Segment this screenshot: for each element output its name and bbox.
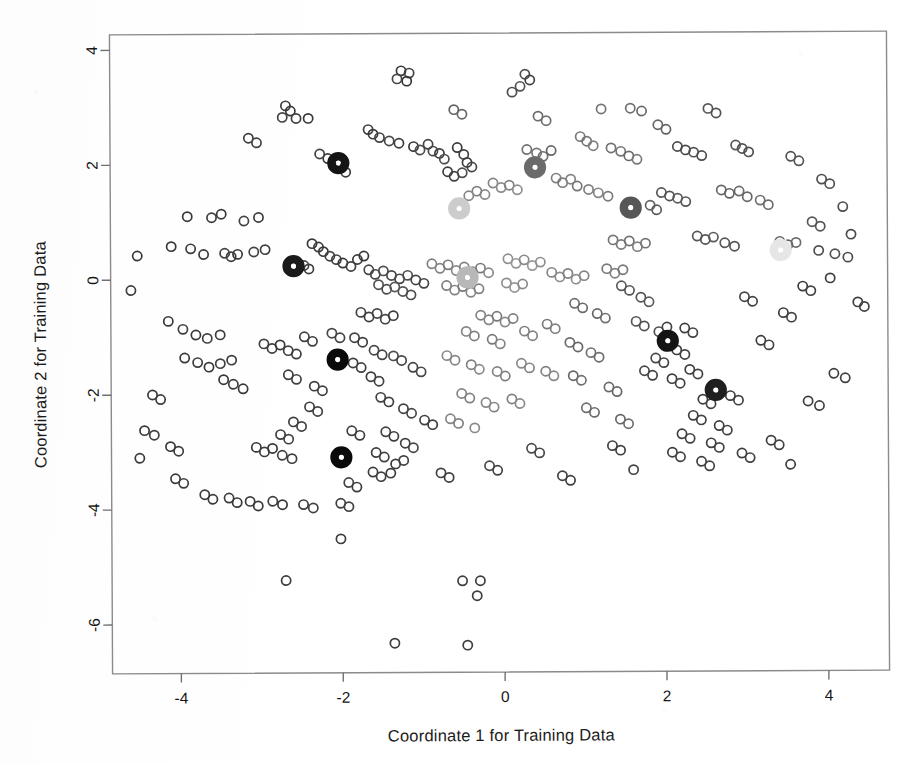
data-point: [416, 367, 425, 376]
data-point: [814, 246, 823, 255]
data-point: [344, 502, 353, 511]
data-point: [207, 213, 216, 222]
data-point: [282, 576, 291, 585]
data-point: [335, 333, 344, 342]
axis-ticks: -4-2024420-2-4-6: [83, 42, 834, 707]
y-tick-label: -6: [86, 618, 103, 632]
data-point: [806, 286, 815, 295]
data-point: [239, 216, 248, 225]
data-point: [140, 426, 149, 435]
data-point: [254, 213, 263, 222]
data-point: [711, 108, 720, 117]
data-point: [378, 350, 387, 359]
data-point: [723, 425, 732, 434]
data-point: [508, 314, 517, 323]
data-point: [308, 337, 317, 346]
cluster-center-core: [291, 264, 296, 269]
data-point: [284, 435, 293, 444]
x-tick-label: 2: [663, 687, 672, 704]
data-point: [199, 250, 208, 259]
data-point: [705, 461, 714, 470]
data-point: [475, 365, 484, 374]
data-point: [276, 340, 285, 349]
data-point: [547, 146, 556, 155]
y-tick-label: -4: [85, 503, 102, 517]
cluster-centers-layer: [286, 154, 788, 464]
cluster-center-core: [628, 205, 633, 210]
data-point: [397, 356, 406, 365]
data-point: [515, 399, 524, 408]
data-point: [216, 330, 225, 339]
data-point: [318, 386, 327, 395]
data-point: [578, 303, 587, 312]
data-point: [697, 151, 706, 160]
data-point: [618, 265, 627, 274]
x-tick-label: -4: [175, 690, 189, 707]
data-point: [278, 451, 287, 460]
data-point: [260, 245, 269, 254]
data-point: [629, 465, 638, 474]
data-point: [528, 331, 537, 340]
data-point: [535, 448, 544, 457]
data-point: [541, 116, 550, 125]
data-point: [419, 279, 428, 288]
data-point: [596, 104, 605, 113]
data-point: [625, 286, 634, 295]
data-point: [652, 205, 661, 214]
data-point: [389, 311, 398, 320]
data-point: [399, 456, 408, 465]
data-point: [178, 325, 187, 334]
data-point: [252, 138, 261, 147]
data-point: [566, 476, 575, 485]
data-point: [457, 110, 466, 119]
data-point: [676, 452, 685, 461]
data-point: [730, 242, 739, 251]
data-point: [513, 185, 522, 194]
data-point: [364, 265, 373, 274]
data-point: [626, 104, 635, 113]
data-point: [492, 312, 501, 321]
data-point: [501, 371, 510, 380]
data-point: [577, 376, 586, 385]
data-point: [309, 503, 318, 512]
data-point: [641, 239, 650, 248]
data-points-layer: [125, 64, 870, 651]
data-point: [573, 181, 582, 190]
data-point: [515, 82, 524, 91]
data-point: [449, 172, 458, 181]
data-point: [551, 173, 560, 182]
data-point: [725, 189, 734, 198]
data-point: [268, 497, 277, 506]
data-point: [216, 359, 225, 368]
data-point: [179, 479, 188, 488]
data-point: [233, 498, 242, 507]
data-point: [644, 297, 653, 306]
data-point: [384, 397, 393, 406]
data-point: [463, 641, 472, 650]
data-point: [474, 284, 483, 293]
data-point: [786, 460, 795, 469]
x-tick-label: 4: [825, 686, 834, 703]
data-point: [174, 447, 183, 456]
data-point: [150, 431, 159, 440]
data-point: [278, 500, 287, 509]
data-point: [191, 330, 200, 339]
data-point: [606, 143, 615, 152]
data-point: [748, 297, 757, 306]
cluster-center-core: [778, 248, 783, 253]
data-point: [186, 244, 195, 253]
scatter-plot: -4-2024420-2-4-6Coordinate 1 for Trainin…: [0, 0, 910, 764]
data-point: [551, 324, 560, 333]
data-point: [355, 431, 364, 440]
data-point: [794, 156, 803, 165]
data-point: [204, 363, 213, 372]
data-point: [584, 185, 593, 194]
data-point: [428, 420, 437, 429]
data-point: [292, 375, 301, 384]
data-point: [464, 191, 473, 200]
data-point: [465, 393, 474, 402]
data-point: [183, 212, 192, 221]
data-point: [443, 167, 452, 176]
data-point: [377, 472, 386, 481]
data-point: [164, 317, 173, 326]
